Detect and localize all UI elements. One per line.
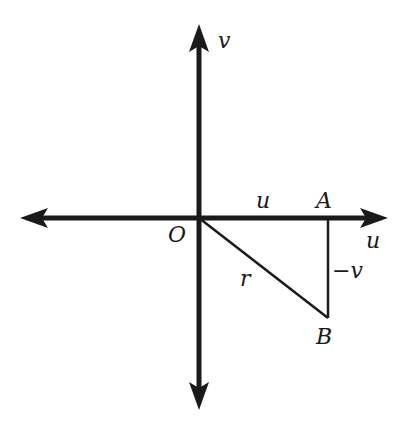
point-a-label: A — [316, 190, 332, 212]
horizontal-axis-label: u — [366, 230, 380, 252]
origin-label: O — [168, 224, 186, 246]
segment-ab-label: −v — [332, 260, 363, 282]
point-b-label: B — [316, 326, 332, 348]
segment-oa-label: u — [256, 190, 270, 212]
segment-ob — [199, 218, 328, 318]
coordinate-diagram — [0, 0, 403, 433]
segment-ob-label: r — [240, 268, 251, 290]
vertical-axis-label: v — [218, 30, 230, 52]
